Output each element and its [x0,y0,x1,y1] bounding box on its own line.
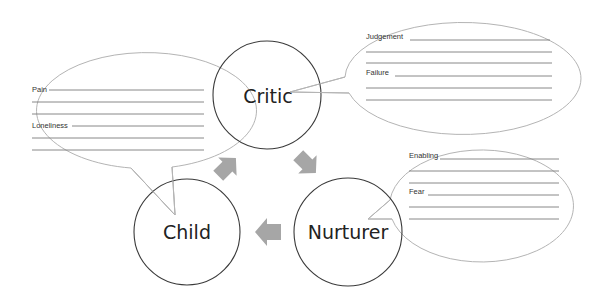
critic-label: Critic [243,85,293,107]
critic-callout-bubble [290,22,581,134]
critic-callout: Judgement Failure [290,22,581,134]
nurturer-callout-bubble [368,150,573,262]
arrow-nurturer-to-child-icon [255,218,281,246]
nurturer-node: Nurturer [294,178,402,286]
pain-label: Pain [32,85,47,94]
nurturer-callout: Enabling Fear [368,150,573,262]
enabling-label: Enabling [409,151,438,160]
loneliness-label: Loneliness [32,121,68,130]
judgement-label: Judgement [366,32,404,41]
child-label: Child [163,221,211,243]
fear-label: Fear [409,187,425,196]
diagram-canvas: Pain Loneliness Judgement Failure Enabli… [0,0,592,299]
failure-label: Failure [366,68,389,77]
child-callout-bubble [37,53,257,215]
nurturer-label: Nurturer [308,221,389,243]
arrow-critic-to-nurturer-icon [289,146,325,182]
child-callout: Pain Loneliness [32,53,257,215]
